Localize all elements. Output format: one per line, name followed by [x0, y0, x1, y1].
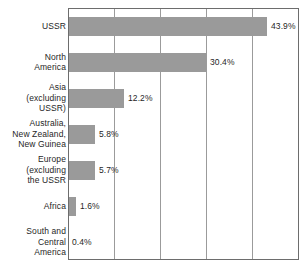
- value-label: 5.8%: [99, 129, 119, 139]
- bar-row: South and Central America0.4%: [0, 224, 306, 260]
- bar-row: North America30.4%: [0, 44, 306, 80]
- bar-and-value: 1.6%: [69, 188, 100, 224]
- bar-row: Europe (excluding the USSR5.7%: [0, 152, 306, 188]
- bar-row: USSR43.9%: [0, 8, 306, 44]
- bar: [69, 197, 76, 216]
- bar-and-value: 12.2%: [69, 80, 153, 116]
- bar: [69, 53, 206, 72]
- value-label: 1.6%: [80, 201, 100, 211]
- bar-rows: USSR43.9%North America30.4%Asia (excludi…: [0, 8, 306, 260]
- bar-row: Asia (excluding USSR)12.2%: [0, 80, 306, 116]
- value-label: 43.9%: [271, 21, 296, 31]
- category-label: North America: [0, 52, 66, 73]
- category-label: Australia, New Zealand, New Guinea: [0, 118, 66, 150]
- bar-row: Africa1.6%: [0, 188, 306, 224]
- category-label: Asia (excluding USSR): [0, 82, 66, 114]
- bar-and-value: 5.8%: [69, 116, 119, 152]
- bar: [69, 161, 95, 180]
- bar-row: Australia, New Zealand, New Guinea5.8%: [0, 116, 306, 152]
- value-label: 0.4%: [72, 237, 92, 247]
- value-label: 30.4%: [210, 57, 235, 67]
- bar: [69, 89, 124, 108]
- bar-and-value: 43.9%: [69, 8, 296, 44]
- bar: [69, 17, 267, 36]
- bar-and-value: 0.4%: [69, 224, 92, 260]
- value-label: 12.2%: [128, 93, 153, 103]
- bar: [69, 125, 95, 144]
- category-label: Africa: [0, 201, 66, 212]
- category-label: South and Central America: [0, 226, 66, 258]
- category-label: USSR: [0, 21, 66, 32]
- bar-chart: USSR43.9%North America30.4%Asia (excludi…: [0, 0, 306, 268]
- category-label: Europe (excluding the USSR: [0, 154, 66, 186]
- value-label: 5.7%: [99, 165, 119, 175]
- bar-and-value: 5.7%: [69, 152, 119, 188]
- bar-and-value: 30.4%: [69, 44, 235, 80]
